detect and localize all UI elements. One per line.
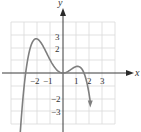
y-tick-label: −3	[51, 107, 61, 117]
polynomial-graph: x y −2 −1 1 2 3 3 2 −2 −3	[0, 0, 141, 132]
x-tick-label: 1	[74, 76, 79, 86]
y-tick-label: 3	[55, 32, 60, 42]
x-tick-label: −1	[43, 76, 53, 86]
y-axis-label: y	[57, 0, 63, 8]
x-tick-label: −2	[30, 76, 40, 86]
curve-end-arrow-icon	[88, 101, 93, 108]
x-axis-label: x	[134, 67, 140, 78]
y-axis-arrow-icon	[60, 8, 66, 16]
y-tick-label: −2	[51, 94, 61, 104]
x-tick-label: 3	[100, 76, 105, 86]
x-axis-arrow-icon	[126, 70, 134, 76]
y-tick-label: 2	[55, 44, 60, 54]
